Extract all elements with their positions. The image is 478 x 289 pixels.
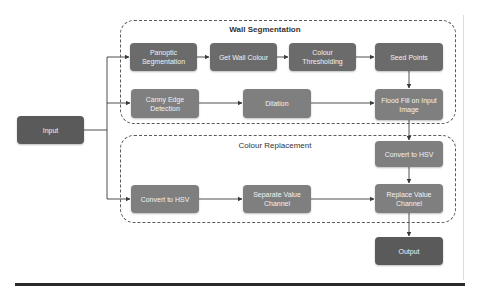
page-edge-divider (463, 15, 464, 280)
colour-thresholding-node: Colour Thresholding (289, 43, 356, 71)
pipeline-diagram: Wall Segmentation Colour Replacement Inp… (0, 0, 478, 289)
replace-value-channel-node: Replace Value Channel (375, 184, 443, 213)
wall-segmentation-title: Wall Segmentation (229, 25, 300, 34)
output-node: Output (375, 237, 443, 265)
dilation-node: Dilation (243, 89, 311, 118)
colour-replacement-title: Colour Replacement (239, 141, 312, 150)
flood-fill-node: Flood Fill on Input Image (375, 89, 443, 120)
convert-to-hsv-right-node: Convert to HSV (375, 141, 443, 167)
seed-points-node: Seed Points (375, 43, 443, 71)
bottom-rule (15, 283, 465, 286)
panoptic-segmentation-node: Panoptic Segmentation (130, 43, 197, 71)
separate-value-channel-node: Separate Value Channel (243, 185, 311, 213)
input-node: Input (17, 116, 84, 144)
convert-to-hsv-left-node: Convert to HSV (131, 185, 199, 213)
get-wall-colour-node: Get Wall Colour (210, 43, 277, 71)
canny-edge-detection-node: Canny Edge Detection (131, 89, 199, 118)
